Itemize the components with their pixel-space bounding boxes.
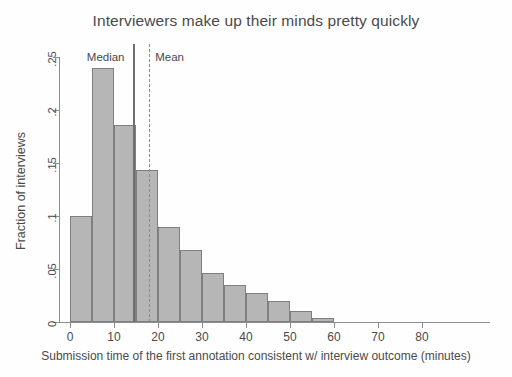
- histogram-chart: Interviewers make up their minds pretty …: [0, 0, 512, 377]
- x-axis-tick-label: 80: [415, 330, 428, 344]
- x-axis-tick-label: 30: [195, 330, 208, 344]
- y-axis-title: Fraction of interviews: [14, 132, 28, 250]
- histogram-bar: [158, 227, 180, 322]
- x-axis-tick: [290, 322, 291, 328]
- x-axis-tick: [334, 322, 335, 328]
- median-label: Median: [87, 51, 125, 63]
- x-axis-tick-label: 60: [327, 330, 340, 344]
- x-axis-tick-label: 70: [371, 330, 384, 344]
- histogram-bar: [246, 293, 268, 322]
- y-axis-tick-label: .1: [46, 213, 58, 222]
- histogram-bar: [290, 311, 312, 322]
- histogram-bar: [70, 216, 92, 322]
- x-axis-tick: [378, 322, 379, 328]
- y-axis-tick-label: .25: [46, 51, 58, 66]
- histogram-bar: [92, 68, 114, 322]
- y-axis-tick-label: .15: [46, 157, 58, 172]
- x-axis-tick: [202, 322, 203, 328]
- x-axis-tick-label: 0: [67, 330, 74, 344]
- y-axis-tick-label: .2: [46, 107, 58, 116]
- x-axis-tick: [422, 322, 423, 328]
- histogram-bar: [312, 318, 334, 322]
- histogram-bar: [136, 170, 158, 322]
- plot-area: 0.05.1.15.2.25 01020304050607080 MedianM…: [0, 0, 512, 377]
- x-axis-tick-label: 20: [151, 330, 164, 344]
- x-axis-tick: [246, 322, 247, 328]
- y-axis-tick-label: .05: [46, 263, 58, 278]
- x-axis-title: Submission time of the first annotation …: [0, 349, 512, 363]
- histogram-bar: [202, 273, 224, 322]
- x-axis-tick-label: 40: [239, 330, 252, 344]
- x-axis-tick-label: 10: [107, 330, 120, 344]
- x-axis-tick: [114, 322, 115, 328]
- x-axis-tick: [158, 322, 159, 328]
- histogram-bar: [180, 250, 202, 322]
- histogram-bar: [268, 301, 290, 322]
- x-axis-line: [59, 322, 490, 323]
- x-axis-tick: [70, 322, 71, 328]
- mean-label: Mean: [155, 51, 184, 63]
- x-axis-tick-label: 50: [283, 330, 296, 344]
- mean-line: [149, 44, 150, 322]
- histogram-bar: [224, 285, 246, 322]
- y-axis-tick-label: 0: [46, 321, 58, 327]
- y-axis-line: [59, 57, 60, 322]
- median-line: [133, 44, 135, 322]
